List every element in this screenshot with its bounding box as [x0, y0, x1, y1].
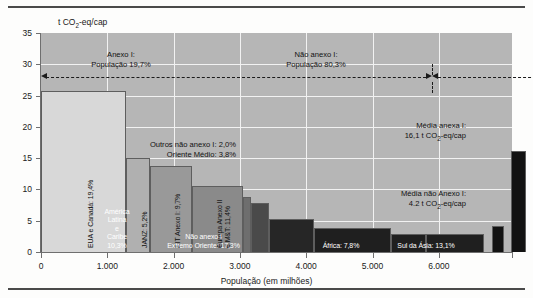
bar-oriente-medio[interactable]: [251, 203, 268, 252]
x-tick-0: [41, 253, 42, 258]
media-nao-anexo-i-l2-pre: 4.2 t CO: [409, 199, 437, 208]
non-annex-i-annotation-l1: Não anexo I:: [294, 50, 337, 59]
non-annex-i-dash: [438, 77, 533, 78]
outros-callout-annotation: Outros não anexo I: 2,0% Oriente Médio: …: [86, 140, 236, 160]
y-tick-35: [36, 33, 40, 34]
media-anexo-i-l2-post: -eq/cap: [441, 131, 466, 140]
y-label-30: 30: [6, 59, 32, 69]
x-axis-line: [41, 252, 513, 253]
media-anexo-i-l1: Média anexa I:: [416, 121, 466, 130]
bar-janz[interactable]: [126, 158, 150, 252]
y-axis-title-pre: t CO: [58, 17, 75, 27]
x-tick-end: [512, 253, 513, 258]
bar-eua-canada[interactable]: [41, 91, 126, 252]
outros-callout-l2: Oriente Médio: 3,8%: [167, 150, 236, 159]
non-annex-i-annotation-l2: População 80,3%: [286, 60, 346, 69]
y-tick-30: [36, 64, 40, 65]
x-tick-3000: [240, 253, 241, 258]
annex-i-annotation-l1: Anexo I:: [107, 50, 135, 59]
non-annex-i-annotation: Não anexo I: População 80,3%: [241, 50, 391, 70]
x-tick-4000: [306, 253, 307, 258]
bar-europa-anexo-ii[interactable]: [192, 186, 242, 252]
bar-africa[interactable]: [391, 234, 426, 252]
x-label-2000: 2.000: [151, 261, 197, 271]
bottom-rule: [8, 288, 525, 290]
x-label-5000: 5.000: [350, 261, 396, 271]
y-tick-15: [36, 158, 40, 159]
annex-i-annotation: Anexo I: População 19,7%: [51, 50, 191, 70]
y-label-0: 0: [6, 247, 32, 257]
bar-america-latina[interactable]: [269, 219, 315, 252]
outros-callout-l1: Outros não anexo I: 2,0%: [150, 140, 236, 149]
x-label-0: 0: [18, 261, 64, 271]
x-tick-1000: [107, 253, 108, 258]
media-anexo-i-annotation: Média anexa I: 16,1 t CO2-eq/cap: [341, 121, 466, 144]
bar-eit-anexo-i[interactable]: [150, 166, 193, 252]
x-label-6000: 6.000: [416, 261, 462, 271]
plot-area: #plot > .bar { /* left/width given in px…: [41, 33, 512, 252]
bar-extremo-oriente[interactable]: [314, 228, 391, 252]
y-tick-25: [36, 96, 40, 97]
annex-divider-tick-lower: [432, 82, 433, 93]
media-nao-anexo-i-l1: Média não Anexo I:: [401, 189, 466, 198]
y-tick-10: [36, 189, 40, 190]
bar-sul-da-asia[interactable]: [426, 234, 484, 252]
annex-i-dash: [46, 77, 426, 78]
chart-figure: t CO2-eq/cap #plot > .bar { /* left/widt: [0, 0, 533, 298]
media-nao-anexo-i-l2-post: -eq/cap: [441, 199, 466, 208]
y-tick-0: [36, 252, 40, 253]
y-label-15: 15: [6, 153, 32, 163]
x-label-4000: 4.000: [283, 261, 329, 271]
media-nao-anexo-i-annotation: Média não Anexo I: 4.2 t CO2-eq/cap: [336, 189, 466, 212]
x-axis-title: População (em milhões): [0, 276, 533, 286]
y-label-5: 5: [6, 216, 32, 226]
y-tick-20: [36, 127, 40, 128]
y-axis-line: [40, 33, 41, 253]
x-tick-6000: [439, 253, 440, 258]
annex-i-annotation-l2: População 19,7%: [91, 60, 151, 69]
x-label-3000: 3.000: [217, 261, 263, 271]
x-tick-2000: [174, 253, 175, 258]
y-label-25: 25: [6, 91, 32, 101]
y-tick-5: [36, 221, 40, 222]
y-label-35: 35: [6, 28, 32, 38]
top-rule: [8, 6, 525, 8]
bar-outros-nao-anexo-i[interactable]: [243, 197, 252, 252]
bar-media-nao-anexo-i[interactable]: [492, 226, 505, 252]
y-axis-title: t CO2-eq/cap: [58, 17, 107, 29]
media-anexo-i-l2-pre: 16,1 t CO: [405, 131, 438, 140]
bar-media-anexo-i[interactable]: [511, 151, 527, 252]
x-tick-5000: [373, 253, 374, 258]
x-label-1000: 1.000: [84, 261, 130, 271]
y-axis-title-post: -eq/cap: [79, 17, 107, 27]
y-label-20: 20: [6, 122, 32, 132]
y-label-10: 10: [6, 184, 32, 194]
